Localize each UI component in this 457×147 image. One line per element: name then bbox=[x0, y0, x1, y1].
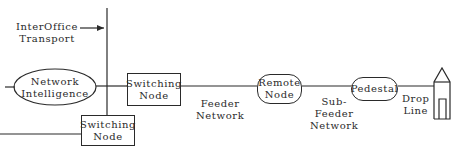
drop-line-label: Drop Line bbox=[402, 93, 430, 117]
label-line: Line bbox=[402, 105, 430, 117]
label-line: Drop bbox=[402, 93, 430, 105]
label-line: Network bbox=[310, 120, 358, 132]
switching-node-top: Switching Node bbox=[127, 73, 181, 106]
label-line: Sub- bbox=[310, 96, 358, 108]
network-intelligence-label: Network Intelligence bbox=[18, 76, 92, 100]
label-line: Node bbox=[265, 89, 295, 101]
label-line: Network bbox=[196, 110, 244, 122]
label-line: Switching bbox=[80, 119, 136, 131]
remote-node: Remote Node bbox=[257, 74, 302, 104]
sub-feeder-network-label: Sub- Feeder Network bbox=[310, 96, 358, 132]
label-line: Node bbox=[93, 131, 123, 143]
label-line: Node bbox=[139, 90, 169, 102]
house-icon bbox=[434, 68, 450, 119]
label-line: Feeder bbox=[310, 108, 358, 120]
label-line: Pedestal bbox=[351, 83, 399, 95]
label-line: InterOffice bbox=[16, 21, 78, 33]
arrow-head-icon bbox=[97, 25, 104, 31]
label-line: Intelligence bbox=[18, 88, 92, 100]
label-line: Transport bbox=[16, 33, 78, 45]
feeder-network-label: Feeder Network bbox=[196, 98, 244, 122]
label-line: Network bbox=[18, 76, 92, 88]
switching-node-bottom: Switching Node bbox=[81, 115, 135, 146]
label-line: Remote bbox=[258, 77, 301, 89]
pedestal: Pedestal bbox=[351, 77, 398, 101]
label-line: Switching bbox=[126, 78, 182, 90]
label-line: Feeder bbox=[196, 98, 244, 110]
interoffice-transport-label: InterOffice Transport bbox=[16, 21, 78, 45]
